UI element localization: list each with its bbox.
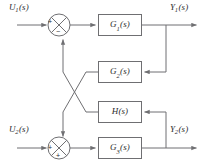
sum1-sign-minus: −	[56, 28, 60, 35]
block-h-label: H(s)	[112, 106, 128, 118]
block-g2[interactable]: G2(s)	[98, 61, 142, 83]
signal-label-y1: Y1(s)	[170, 2, 188, 12]
block-g3[interactable]: G3(s)	[98, 137, 142, 159]
block-g2-label: G2(s)	[110, 66, 130, 78]
signal-label-y2: Y2(s)	[170, 124, 188, 134]
sum2-sign-plus-left: +	[48, 144, 52, 151]
signal-label-u2: U2(s)	[9, 124, 29, 134]
block-g1[interactable]: G1(s)	[98, 14, 142, 36]
sum1-sign-plus: +	[48, 18, 52, 25]
block-g1-label: G1(s)	[110, 19, 130, 31]
block-diagram: G1(s) G2(s) H(s) G3(s) + − + + U1(s) Y1(…	[0, 0, 208, 165]
block-g3-label: G3(s)	[110, 142, 130, 154]
block-h[interactable]: H(s)	[98, 101, 142, 123]
signal-label-u1: U1(s)	[9, 2, 29, 12]
sum2-sign-plus-bottom: +	[56, 152, 60, 159]
